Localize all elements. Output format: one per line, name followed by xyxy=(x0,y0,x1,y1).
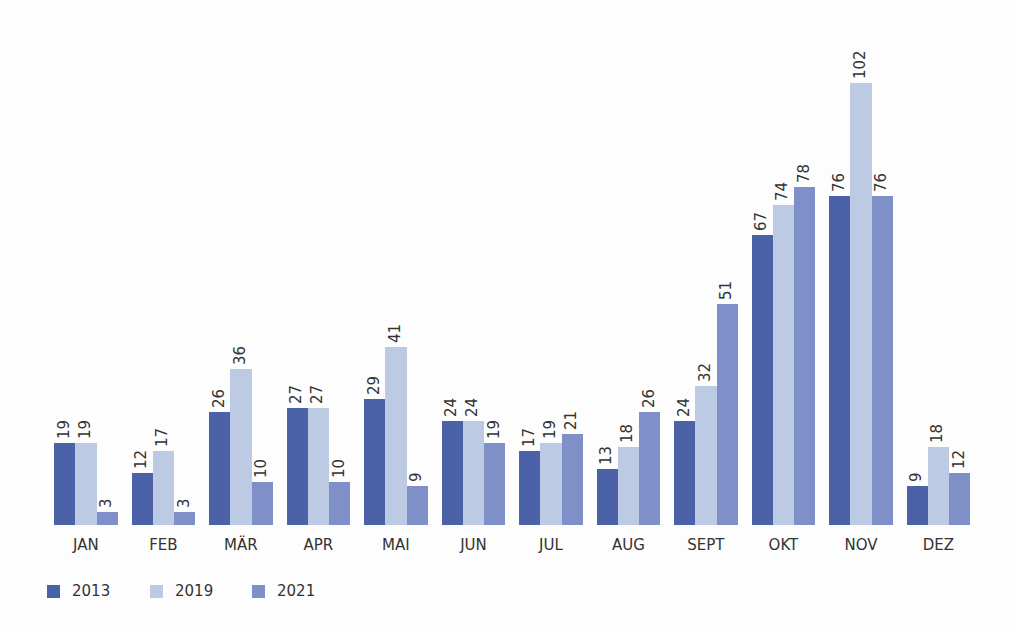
bar-2021-nov xyxy=(872,196,893,525)
bar-2013-jan xyxy=(54,443,75,525)
bar-2019-feb xyxy=(153,451,174,525)
value-label: 26 xyxy=(641,389,657,408)
value-label: 19 xyxy=(77,420,93,439)
value-label: 41 xyxy=(387,324,403,343)
bar-2021-feb xyxy=(174,512,195,525)
value-label: 76 xyxy=(831,173,847,192)
value-label: 18 xyxy=(929,424,945,443)
value-label: 24 xyxy=(443,398,459,417)
value-label: 78 xyxy=(796,164,812,183)
bar-2013-dez xyxy=(907,486,928,525)
bar-2021-mär xyxy=(252,482,273,525)
value-label: 10 xyxy=(331,459,347,478)
bar-2013-sept xyxy=(674,421,695,525)
value-label: 74 xyxy=(774,181,790,200)
value-label: 10 xyxy=(253,459,269,478)
value-label: 67 xyxy=(753,212,769,231)
value-label: 27 xyxy=(309,385,325,404)
value-label: 19 xyxy=(56,420,72,439)
bar-2021-sept xyxy=(717,304,738,525)
bar-2021-jan xyxy=(97,512,118,525)
x-axis-label-aug: AUG xyxy=(588,536,668,554)
value-label: 51 xyxy=(718,281,734,300)
value-label: 13 xyxy=(598,446,614,465)
value-label: 36 xyxy=(232,346,248,365)
value-label: 102 xyxy=(852,51,868,80)
value-label: 26 xyxy=(211,389,227,408)
value-label: 17 xyxy=(521,428,537,447)
legend-label: 2019 xyxy=(175,582,213,600)
legend-label: 2021 xyxy=(277,582,315,600)
bar-2013-okt xyxy=(752,235,773,525)
bar-2021-apr xyxy=(329,482,350,525)
value-label: 12 xyxy=(951,450,967,469)
x-axis-label-sept: SEPT xyxy=(666,536,746,554)
bar-2013-feb xyxy=(132,473,153,525)
legend-swatch-icon xyxy=(252,585,265,598)
x-axis-label-jul: JUL xyxy=(511,536,591,554)
bar-2019-aug xyxy=(618,447,639,525)
value-label: 32 xyxy=(697,363,713,382)
bar-2021-aug xyxy=(639,412,660,525)
value-label: 29 xyxy=(366,376,382,395)
legend-label: 2013 xyxy=(72,582,110,600)
bar-2019-nov xyxy=(850,83,871,525)
legend-item-2021: 2021 xyxy=(252,582,315,600)
legend-item-2013: 2013 xyxy=(47,582,110,600)
bar-2013-jul xyxy=(519,451,540,525)
bar-2013-jun xyxy=(442,421,463,525)
bar-2013-apr xyxy=(287,408,308,525)
bar-2013-mär xyxy=(209,412,230,525)
x-axis-label-mai: MAI xyxy=(356,536,436,554)
bar-2013-nov xyxy=(829,196,850,525)
bar-2013-mai xyxy=(364,399,385,525)
bar-2019-sept xyxy=(695,386,716,525)
value-label: 27 xyxy=(288,385,304,404)
legend-item-2019: 2019 xyxy=(150,582,213,600)
value-label: 76 xyxy=(873,173,889,192)
bar-2019-jan xyxy=(75,443,96,525)
x-axis-label-jun: JUN xyxy=(433,536,513,554)
x-axis-label-jan: JAN xyxy=(46,536,126,554)
x-axis-label-okt: OKT xyxy=(743,536,823,554)
bar-2021-jul xyxy=(562,434,583,525)
legend-swatch-icon xyxy=(150,585,163,598)
bar-2021-okt xyxy=(794,187,815,525)
grouped-bar-chart: 19193JAN12173FEB263610MÄR272710APR29419M… xyxy=(0,0,1015,633)
bar-2019-jul xyxy=(540,443,561,525)
value-label: 24 xyxy=(676,398,692,417)
x-axis-label-nov: NOV xyxy=(821,536,901,554)
x-axis-label-dez: DEZ xyxy=(898,536,978,554)
bar-2019-apr xyxy=(308,408,329,525)
value-label: 17 xyxy=(154,428,170,447)
value-label: 18 xyxy=(619,424,635,443)
value-label: 9 xyxy=(908,472,924,482)
bar-2019-jun xyxy=(463,421,484,525)
value-label: 21 xyxy=(563,411,579,430)
value-label: 3 xyxy=(176,498,192,508)
bar-2019-mär xyxy=(230,369,251,525)
bar-2013-aug xyxy=(597,469,618,525)
bar-2019-dez xyxy=(928,447,949,525)
bar-2019-okt xyxy=(773,205,794,525)
value-label: 3 xyxy=(98,498,114,508)
legend-swatch-icon xyxy=(47,585,60,598)
x-axis-label-mär: MÄR xyxy=(201,536,281,554)
value-label: 19 xyxy=(542,420,558,439)
bar-2021-dez xyxy=(949,473,970,525)
bar-2021-jun xyxy=(484,443,505,525)
bar-2021-mai xyxy=(407,486,428,525)
value-label: 24 xyxy=(464,398,480,417)
value-label: 12 xyxy=(133,450,149,469)
bar-2019-mai xyxy=(385,347,406,525)
x-axis-label-apr: APR xyxy=(278,536,358,554)
value-label: 9 xyxy=(408,472,424,482)
x-axis-label-feb: FEB xyxy=(123,536,203,554)
value-label: 19 xyxy=(486,420,502,439)
